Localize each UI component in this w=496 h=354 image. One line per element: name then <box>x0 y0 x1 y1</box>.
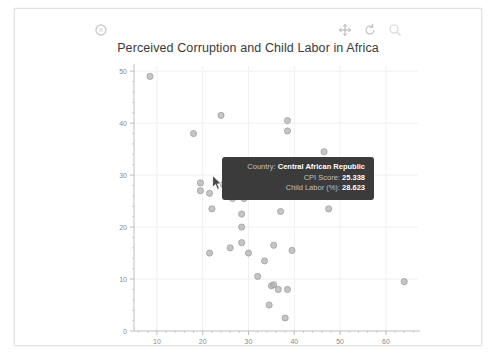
data-point[interactable] <box>326 206 332 212</box>
data-point[interactable] <box>266 302 272 308</box>
svg-text:20: 20 <box>199 338 207 345</box>
svg-text:50: 50 <box>119 68 127 75</box>
data-point[interactable] <box>239 240 245 246</box>
data-point[interactable] <box>197 180 203 186</box>
mouse-cursor-icon <box>212 175 223 191</box>
tooltip-key: Child Labor (%): <box>286 183 342 192</box>
data-point[interactable] <box>218 112 224 118</box>
data-point[interactable] <box>239 211 245 217</box>
svg-text:60: 60 <box>382 338 390 345</box>
svg-text:50: 50 <box>336 338 344 345</box>
data-point[interactable] <box>284 128 290 134</box>
tooltip-row: Child Labor (%): 28.623 <box>231 183 365 194</box>
tick-marks <box>130 71 413 335</box>
tooltip-value: 28.623 <box>342 183 365 192</box>
svg-text:20: 20 <box>119 224 127 231</box>
data-point[interactable] <box>227 245 233 251</box>
tooltip-key: CPI Score: <box>304 173 342 182</box>
app-root: Perceived Corruption and Child Labor in … <box>0 0 496 354</box>
svg-text:30: 30 <box>119 172 127 179</box>
tooltip-value: 25.338 <box>342 173 365 182</box>
tick-labels: 01020304050102030405060 <box>119 68 390 345</box>
tooltip-row: Country: Central African Republic <box>231 162 365 173</box>
tooltip-value: Central African Republic <box>278 162 365 171</box>
data-point[interactable] <box>282 315 288 321</box>
svg-text:30: 30 <box>245 338 253 345</box>
data-point[interactable] <box>289 247 295 253</box>
point-tooltip: Country: Central African RepublicCPI Sco… <box>222 157 374 200</box>
svg-text:40: 40 <box>290 338 298 345</box>
data-point[interactable] <box>284 117 290 123</box>
data-point[interactable] <box>261 258 267 264</box>
chart-card: Perceived Corruption and Child Labor in … <box>14 8 482 346</box>
svg-text:10: 10 <box>153 338 161 345</box>
data-point[interactable] <box>190 130 196 136</box>
data-point[interactable] <box>239 224 245 230</box>
data-point[interactable] <box>284 286 290 292</box>
data-point[interactable] <box>245 250 251 256</box>
data-point[interactable] <box>321 149 327 155</box>
data-point[interactable] <box>147 73 153 79</box>
tooltip-key: Country: <box>247 162 277 171</box>
data-point[interactable] <box>206 250 212 256</box>
svg-text:40: 40 <box>119 120 127 127</box>
data-point[interactable] <box>209 206 215 212</box>
data-point[interactable] <box>277 208 283 214</box>
data-point[interactable] <box>271 242 277 248</box>
tooltip-row: CPI Score: 25.338 <box>231 173 365 184</box>
svg-text:0: 0 <box>123 328 127 335</box>
data-point[interactable] <box>197 188 203 194</box>
data-point[interactable] <box>401 279 407 285</box>
data-point[interactable] <box>206 190 212 196</box>
data-point[interactable] <box>271 282 277 288</box>
data-point[interactable] <box>275 286 281 292</box>
data-point[interactable] <box>255 273 261 279</box>
svg-text:10: 10 <box>119 276 127 283</box>
